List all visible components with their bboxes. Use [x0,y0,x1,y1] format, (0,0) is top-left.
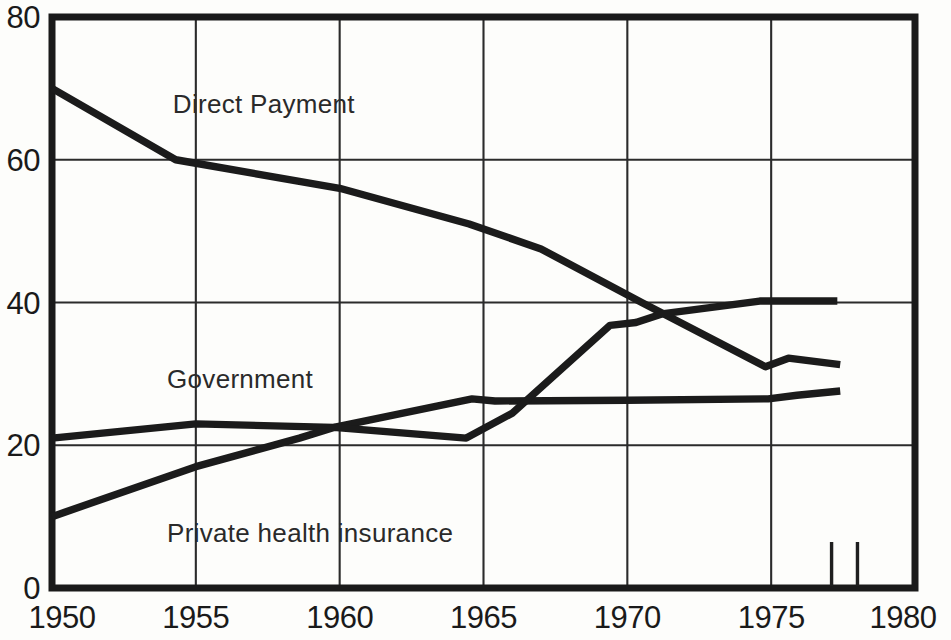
line-chart: 020406080 1950195519601965197019751980 D… [0,0,951,640]
series-line-direct-payment [52,88,840,366]
series-label-government: Government [167,364,314,394]
y-tick-label: 60 [7,143,41,178]
series-line-government [52,391,840,438]
y-tick-label: 80 [7,0,41,35]
series-label-direct-payment: Direct Payment [173,89,355,119]
y-axis-tick-labels: 020406080 [7,0,41,606]
x-axis-tick-labels: 1950195519601965197019751980 [29,600,937,635]
chart-container: 020406080 1950195519601965197019751980 D… [0,0,951,640]
x-tick-label: 1970 [594,600,661,635]
x-tick-label: 1975 [738,600,805,635]
y-tick-label: 40 [7,286,41,321]
axis-ticks [832,542,858,586]
x-tick-label: 1950 [29,600,96,635]
series-line-private-health-insurance [52,301,837,517]
series-annotations: Direct PaymentGovernmentPrivate health i… [167,89,453,547]
x-tick-label: 1960 [306,600,373,635]
series-label-private-health-insurance: Private health insurance [167,518,453,548]
y-tick-label: 20 [7,428,41,463]
x-tick-label: 1965 [450,600,517,635]
x-tick-label: 1980 [870,600,937,635]
x-tick-label: 1955 [162,600,229,635]
